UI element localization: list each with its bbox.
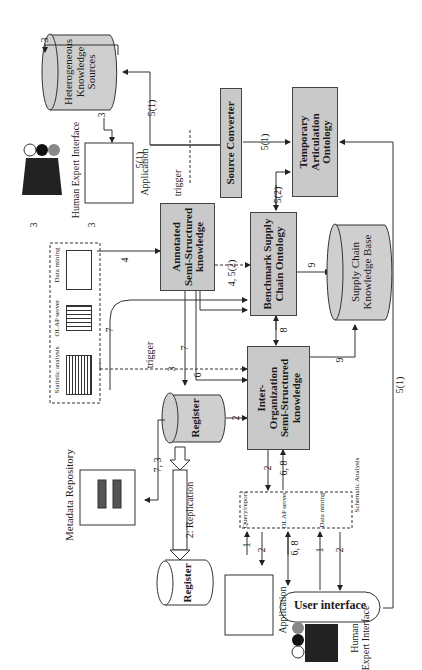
edge-label-trigger-top: trigger (173, 170, 184, 197)
temporary-articulation-box: TemporaryArticulationOntology (292, 87, 338, 197)
edge-label-2b: 2 (263, 466, 274, 471)
edge-label-2d: 2 (335, 548, 346, 553)
grid-table-icon (66, 355, 92, 395)
olap-cube-icon (66, 305, 92, 331)
schematic-analysis-title: Schematic Analysis (354, 457, 361, 512)
chart-line-icon (66, 250, 92, 290)
edge-label-7-3: 7, 3 (153, 458, 164, 473)
register-main-label: Register (190, 398, 202, 437)
tool-statistic-analysis: Statistic analysis (54, 347, 61, 394)
human-expert-bottom-icon (290, 620, 340, 665)
edge-label-5-1-right: 5(1) (395, 377, 406, 394)
tool-data-mining-top: Data mining (54, 248, 61, 283)
edge-label-3c: 3 (29, 223, 40, 228)
source-converter-box: Source Converter (220, 88, 242, 198)
inter-org-ssk-label: Inter-OrganizationSemi-Structuredknowled… (255, 359, 301, 437)
edge-label-5-2: 5(2) (273, 187, 284, 204)
edge-label-6-8a: 6, 8 (279, 461, 290, 476)
benchmark-ontology-box: Benchmark SupplyChain Ontology (250, 212, 297, 316)
edge-label-1b: 1 (315, 548, 326, 553)
edge-label-8: 8 (279, 328, 290, 333)
edge-label-9b: 9 (335, 358, 346, 363)
edge-label-7a: 7 (105, 328, 116, 333)
edge-label-5-1-conv: 5(1) (260, 134, 271, 151)
edge-label-4: 4 (120, 258, 131, 263)
metadata-repository-label: Metadata Repository (64, 449, 76, 541)
benchmark-ontology-label: Benchmark SupplyChain Ontology (262, 219, 285, 310)
sc-knowledge-base-label: Supply ChainKnowledge Base (350, 235, 373, 310)
edge-label-3a: 3 (40, 38, 51, 43)
edge-label-5-1-top: 5(1) (147, 100, 158, 117)
source-converter-label: Source Converter (225, 101, 237, 184)
edge-label-2a: 2 (231, 416, 242, 421)
edge-label-3d: 3 (87, 223, 98, 228)
temporary-articulation-label: TemporaryArticulationOntology (298, 113, 333, 170)
human-expert-top-label: Human Expert Interface (71, 122, 82, 219)
edge-label-1a: 1 (242, 543, 253, 548)
edge-label-3b: 3 (97, 113, 108, 118)
edge-label-3e: 3 (167, 367, 178, 372)
edge-label-2c: 2 (257, 548, 268, 553)
tool-olap-bottom: OLAP server (281, 492, 288, 529)
edge-label-7b: 7 (180, 346, 191, 351)
annotated-ssk-label: AnnotatedSemi-Structuredknowledge (170, 208, 205, 286)
edge-label-6: 6 (193, 373, 204, 378)
heterogeneous-sources-label: HeterogeneousKnowledgeSources (63, 39, 98, 105)
tool-olap-top: OLAP server (54, 300, 61, 337)
register-replica-label: Register (182, 563, 194, 602)
tool-query-report: Query/report (242, 492, 249, 528)
edge-label-6-8b: 6, 8 (290, 541, 301, 556)
annotated-ssk-box: AnnotatedSemi-Structuredknowledge (160, 203, 215, 291)
edge-label-9a: 9 (307, 263, 318, 268)
human-expert-bottom-label: HumanExpert Interface (350, 606, 371, 670)
application-bottom-label: Application (278, 586, 289, 633)
tool-data-mining-bottom: Data mining (319, 493, 326, 528)
edge-label-5-1-trigger: 5(1) (135, 152, 146, 169)
human-expert-top-icon (18, 140, 68, 200)
inter-org-ssk-box: Inter-OrganizationSemi-Structuredknowled… (247, 346, 310, 450)
edge-label-replication: 2: Replication (185, 482, 196, 538)
edge-label-trigger-mid: trigger (145, 342, 156, 369)
edge-label-4-5-2: 4, 5(2) (227, 260, 238, 287)
